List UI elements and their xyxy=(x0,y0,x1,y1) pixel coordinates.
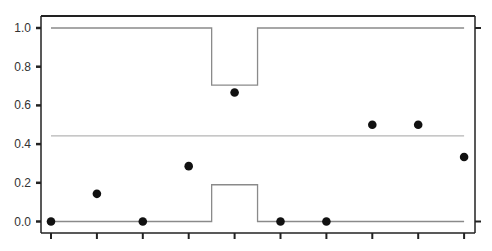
y-tick-label: 0.0 xyxy=(14,215,31,229)
y-tick-label: 0.2 xyxy=(14,176,31,190)
data-point xyxy=(139,217,148,226)
data-point xyxy=(47,217,56,226)
data-point xyxy=(184,162,193,171)
data-point xyxy=(414,120,423,129)
upper-control-limit xyxy=(51,28,464,85)
lower-control-limit xyxy=(51,185,464,222)
data-point xyxy=(276,217,285,226)
y-axis-ticks: 0.00.20.40.60.81.0 xyxy=(14,21,41,229)
data-point xyxy=(230,88,239,97)
y-tick-label: 0.8 xyxy=(14,60,31,74)
x-axis-ticks xyxy=(51,233,464,239)
data-point xyxy=(460,153,469,162)
y-tick-label: 1.0 xyxy=(14,21,31,35)
control-chart: 0.00.20.40.60.81.0 xyxy=(0,0,492,251)
y-tick-label: 0.6 xyxy=(14,98,31,112)
control-lines xyxy=(51,28,464,222)
data-point xyxy=(93,190,102,199)
data-point xyxy=(368,120,377,129)
right-axis-ticks xyxy=(475,28,481,222)
data-point xyxy=(322,217,331,226)
y-tick-label: 0.4 xyxy=(14,137,31,151)
